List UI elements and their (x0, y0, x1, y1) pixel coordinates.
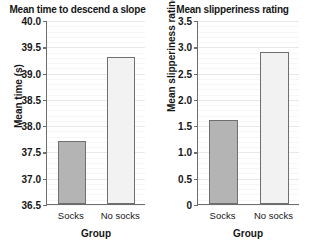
y-tick-mark (43, 152, 47, 153)
y-tick-label: 3.0 (178, 42, 192, 53)
y-tick-label: 3.5 (178, 16, 192, 27)
y-tick-mark (194, 100, 198, 101)
y-axis-label-mean-slipperiness: Mean slipperiness rating (166, 0, 177, 112)
gridline (198, 21, 299, 22)
y-tick-mark (194, 126, 198, 127)
plot-area-mean-slipperiness: 00.51.01.52.02.53.03.5 (197, 21, 299, 205)
y-tick-label: 38.0 (22, 121, 41, 132)
y-tick-label: 37.0 (22, 173, 41, 184)
chart-title-mean-slipperiness: Mean slipperiness rating (155, 4, 310, 15)
bar-no-socks (107, 57, 135, 204)
y-tick-label: 0.5 (178, 173, 192, 184)
y-tick-mark (194, 47, 198, 48)
minor-gridline (198, 205, 299, 206)
minor-gridline (198, 37, 299, 38)
plot-area-mean-time: 36.537.037.538.038.539.039.540.0 (46, 21, 145, 205)
y-tick-label: 39.0 (22, 68, 41, 79)
y-tick-label: 0 (186, 200, 192, 211)
y-tick-mark (43, 47, 47, 48)
plot-canvas-mean-slipperiness: 00.51.01.52.02.53.03.5 (197, 21, 299, 205)
y-tick-label: 38.5 (22, 94, 41, 105)
bar-no-socks (260, 52, 289, 204)
minor-gridline (198, 42, 299, 43)
figure-two-bar-charts: Mean time to descend a slope Mean time (… (0, 0, 310, 246)
panel-mean-time: Mean time to descend a slope Mean time (… (0, 0, 155, 246)
y-tick-label: 36.5 (22, 200, 41, 211)
minor-gridline (198, 26, 299, 27)
y-tick-mark (43, 21, 47, 22)
minor-gridline (47, 53, 145, 54)
y-tick-label: 1.5 (178, 121, 192, 132)
y-tick-mark (43, 179, 47, 180)
y-tick-mark (43, 74, 47, 75)
y-tick-label: 39.5 (22, 42, 41, 53)
minor-gridline (47, 42, 145, 43)
x-axis-label-mean-time: Group (40, 228, 152, 239)
minor-gridline (47, 205, 145, 206)
minor-gridline (47, 32, 145, 33)
y-tick-label: 2.0 (178, 94, 192, 105)
bar-socks (209, 120, 238, 204)
y-tick-label: 40.0 (22, 16, 41, 27)
y-tick-mark (43, 100, 47, 101)
y-tick-mark (194, 21, 198, 22)
y-tick-mark (194, 152, 198, 153)
x-tick-label: Socks (58, 210, 84, 221)
y-tick-mark (194, 179, 198, 180)
gridline (47, 21, 145, 22)
x-tick-label: Socks (210, 210, 236, 221)
y-tick-mark (43, 126, 47, 127)
chart-title-mean-time: Mean time to descend a slope (0, 4, 155, 15)
x-tick-label: No socks (101, 210, 140, 221)
x-tick-label: No socks (254, 210, 293, 221)
minor-gridline (198, 32, 299, 33)
plot-canvas-mean-time: 36.537.037.538.038.539.039.540.0 (46, 21, 145, 205)
gridline (198, 47, 299, 48)
y-tick-mark (43, 205, 47, 206)
y-tick-mark (194, 74, 198, 75)
y-tick-label: 37.5 (22, 147, 41, 158)
minor-gridline (47, 37, 145, 38)
bar-socks (58, 141, 86, 204)
gridline (47, 47, 145, 48)
y-tick-mark (194, 205, 198, 206)
minor-gridline (47, 26, 145, 27)
x-axis-label-mean-slipperiness: Group (191, 228, 305, 239)
y-tick-label: 2.5 (178, 68, 192, 79)
y-tick-label: 1.0 (178, 147, 192, 158)
panel-mean-slipperiness: Mean slipperiness rating Mean slipperine… (155, 0, 310, 246)
